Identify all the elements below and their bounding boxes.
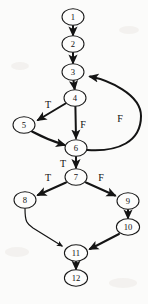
edge-7-to-8 [38, 183, 66, 196]
edge-4-to-5 [38, 104, 66, 121]
node-6[interactable]: 6 [65, 140, 87, 156]
edge-6-to-3-backedge [88, 77, 142, 151]
node-8[interactable]: 8 [14, 192, 36, 208]
edge-4-to-6 [75, 107, 76, 139]
node-7[interactable]: 7 [65, 169, 87, 185]
edge-3-to-4 [74, 81, 75, 90]
edge-7-to-9 [86, 183, 115, 196]
edge-label-false-4-6: F [80, 119, 86, 130]
node-1[interactable]: 1 [62, 9, 84, 25]
diagram-canvas: 1 2 3 4 5 6 [0, 0, 148, 304]
node-5[interactable]: 5 [13, 117, 35, 133]
edge-label-true-6-7: T [60, 158, 66, 169]
node-4[interactable]: 4 [64, 90, 86, 106]
node-9[interactable]: 9 [117, 193, 139, 209]
edge-label-layer: T F F T T F [45, 99, 123, 183]
edge-label-false-7-9: F [98, 172, 104, 183]
edge-label-true-7-8: T [45, 172, 51, 183]
edge-label-true-4-5: T [45, 99, 51, 110]
edge-label-false-6-3: F [117, 113, 123, 124]
edge-10-to-11 [90, 234, 119, 249]
control-flow-graph: 1 2 3 4 5 6 [0, 0, 148, 304]
node-3[interactable]: 3 [62, 64, 84, 80]
edge-8-to-11 [25, 209, 62, 247]
node-12[interactable]: 12 [64, 270, 87, 286]
node-11[interactable]: 11 [64, 245, 87, 261]
node-layer: 1 2 3 4 5 6 [13, 9, 140, 286]
edge-5-to-6 [32, 132, 65, 146]
node-10[interactable]: 10 [116, 219, 139, 235]
node-2[interactable]: 2 [62, 36, 84, 52]
